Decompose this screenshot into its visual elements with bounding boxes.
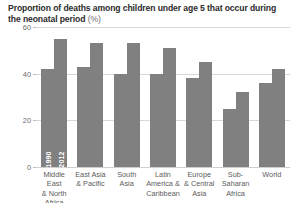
x-axis-label: East Asia& Pacific bbox=[72, 170, 108, 203]
bar[interactable]: 2012 bbox=[54, 39, 67, 167]
bar-group: 19902012 bbox=[36, 27, 72, 167]
bar[interactable] bbox=[186, 78, 199, 167]
bar-group bbox=[145, 27, 181, 167]
bar-group bbox=[109, 27, 145, 167]
x-axis-label: Sub-SaharanAfrica bbox=[217, 170, 253, 203]
bar[interactable] bbox=[236, 92, 249, 167]
bar[interactable] bbox=[259, 83, 272, 167]
x-axis-labels: Middle East& NorthAfricaEast Asia& Pacif… bbox=[36, 170, 290, 203]
x-axis-label: World bbox=[254, 170, 290, 203]
y-axis-tick-label-60: 60 bbox=[23, 23, 31, 32]
chart-title-text: Proportion of deaths among children unde… bbox=[8, 3, 276, 24]
y-axis-tick-label-20: 20 bbox=[23, 116, 31, 125]
bar[interactable] bbox=[272, 69, 285, 167]
bar[interactable] bbox=[199, 62, 212, 167]
chart-title-unit: (%) bbox=[88, 14, 101, 24]
series-label-1990: 1990 bbox=[44, 151, 51, 167]
x-axis-label: LatinAmerica &Caribbean bbox=[145, 170, 181, 203]
bar[interactable] bbox=[150, 74, 163, 167]
bar-group bbox=[254, 27, 290, 167]
chart-title: Proportion of deaths among children unde… bbox=[8, 3, 288, 25]
bar[interactable] bbox=[77, 67, 90, 167]
bar[interactable] bbox=[114, 74, 127, 167]
bar[interactable] bbox=[163, 48, 176, 167]
x-axis-label: Middle East& NorthAfrica bbox=[36, 170, 72, 203]
bar[interactable]: 1990 bbox=[41, 69, 54, 167]
bar[interactable] bbox=[90, 43, 103, 167]
gridline-0: 0 bbox=[36, 167, 290, 168]
bar-group bbox=[217, 27, 253, 167]
series-label-2012: 2012 bbox=[57, 151, 64, 167]
x-axis-label: SouthAsia bbox=[109, 170, 145, 203]
y-axis-tick-label-40: 40 bbox=[23, 69, 31, 78]
x-axis-label: Europe& CentralAsia bbox=[181, 170, 217, 203]
y-axis-tickmark-0 bbox=[33, 167, 36, 168]
bar[interactable] bbox=[223, 109, 236, 167]
bar-group bbox=[181, 27, 217, 167]
bar-group bbox=[72, 27, 108, 167]
chart-container: Proportion of deaths among children unde… bbox=[0, 0, 294, 203]
plot-area: 0204060 19902012 bbox=[36, 27, 290, 167]
bar[interactable] bbox=[127, 43, 140, 167]
y-axis-tick-label-0: 0 bbox=[27, 163, 31, 172]
bar-groups: 19902012 bbox=[36, 27, 290, 167]
